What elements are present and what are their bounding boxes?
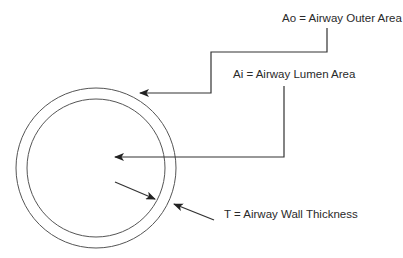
- label-airway-outer-area: Ao = Airway Outer Area: [282, 13, 402, 25]
- ai-arrow: [115, 86, 284, 157]
- ao-arrow: [140, 28, 327, 93]
- t-inner-arrow: [115, 182, 155, 199]
- label-airway-wall-thickness: T = Airway Wall Thickness: [224, 209, 358, 221]
- inner-lumen-circle: [27, 99, 165, 237]
- t-outer-arrow: [174, 204, 214, 220]
- outer-airway-wall-circle: [16, 88, 176, 248]
- label-airway-lumen-area: Ai = Airway Lumen Area: [233, 69, 355, 81]
